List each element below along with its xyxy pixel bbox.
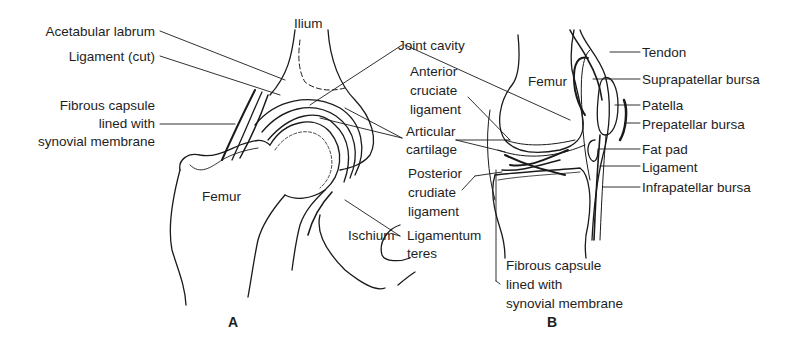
label-ligamentum-teres-line1: Ligamentum [407,228,481,243]
label-anterior-cruciate-line1: Anterior [410,64,457,79]
panel-b-letter: B [547,315,557,330]
label-articular-cartilage-line2: cartilage [406,142,457,157]
label-articular-cartilage-line1: Articular [406,124,456,139]
label-posterior-cruciate-line2: crudiate [408,185,456,200]
panel-a-letter: A [228,315,238,330]
label-ilium: Ilium [294,16,323,31]
label-anterior-cruciate-line2: cruciate [410,83,457,98]
label-ischium: Ischium [348,228,395,243]
label-fat-pad: Fat pad [642,142,688,157]
label-femur-a: Femur [202,189,241,204]
label-posterior-cruciate-line3: ligament [408,204,459,219]
label-ligamentum-teres-line2: teres [407,246,437,261]
label-tendon: Tendon [642,45,686,60]
knee-joint-drawing [488,30,627,258]
label-acetabular-labrum: Acetabular labrum [0,24,155,39]
label-posterior-cruciate-line1: Posterior [408,166,462,181]
label-patella: Patella [642,98,683,113]
label-fibrous-capsule-a-line2: lined with [0,116,155,131]
label-joint-cavity: Joint cavity [398,38,465,53]
label-femur-b: Femur [528,74,567,89]
label-fibrous-capsule-b-line3: synovial membrane [506,296,623,311]
label-ligament-cut: Ligament (cut) [0,49,155,64]
leader-lines [160,31,640,284]
label-fibrous-capsule-a-line3: synovial membrane [0,134,155,149]
label-ligament-b: Ligament [642,160,698,175]
label-prepatellar-bursa: Prepatellar bursa [642,117,745,132]
label-anterior-cruciate-line3: ligament [410,102,461,117]
label-infrapatellar-bursa: Infrapatellar bursa [642,180,751,195]
label-fibrous-capsule-b-line1: Fibrous capsule [506,258,601,273]
label-fibrous-capsule-a-line1: Fibrous capsule [0,98,155,113]
label-fibrous-capsule-b-line2: lined with [506,277,562,292]
label-suprapatellar-bursa: Suprapatellar bursa [642,72,760,87]
